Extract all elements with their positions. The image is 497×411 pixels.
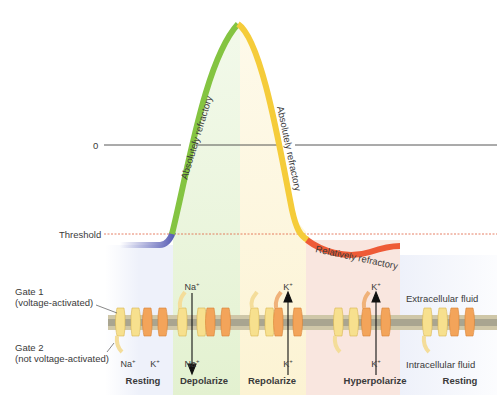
gate1-title: Gate 1 — [15, 286, 93, 297]
ion-label-na-inside: Na+ — [184, 358, 199, 369]
ion-label-k-inside-hyperpolarize: K+ — [371, 358, 381, 369]
ion-label-na-outside: Na+ — [184, 281, 199, 292]
action-potential-curve — [120, 24, 470, 255]
ion-label-k-outside-hyperpolarize: K+ — [371, 281, 381, 292]
gate2-label: Gate 2 (not voltage-activated) — [15, 342, 109, 364]
threshold-label: Threshold — [59, 229, 101, 240]
band-depolarize — [173, 24, 240, 395]
zero-label: 0 — [93, 140, 98, 151]
gate1-label: Gate 1 (voltage-activated) — [15, 286, 93, 308]
extracellular-label: Extracellular fluid — [406, 293, 478, 304]
band-repolarize — [240, 24, 306, 395]
ion-label-k-inside-repolarize: K+ — [283, 358, 293, 369]
phase-bands — [105, 24, 497, 395]
ion-label-na-resting: Na+ — [120, 358, 135, 369]
intracellular-label: Intracellular fluid — [406, 359, 475, 370]
gate2-title: Gate 2 — [15, 342, 109, 353]
phase-label-repolarize: Repolarize — [248, 375, 296, 386]
phase-label-depolarize: Depolarize — [180, 375, 228, 386]
phase-label-resting-right: Resting — [443, 375, 478, 386]
phase-label-hyperpolarize: Hyperpolarize — [344, 375, 407, 386]
ion-label-k-outside-repolarize: K+ — [283, 281, 293, 292]
gate2-subtitle: (not voltage-activated) — [15, 353, 109, 364]
ion-label-k-resting: K+ — [150, 358, 160, 369]
phase-label-resting: Resting — [126, 375, 161, 386]
gate1-subtitle: (voltage-activated) — [15, 297, 93, 308]
